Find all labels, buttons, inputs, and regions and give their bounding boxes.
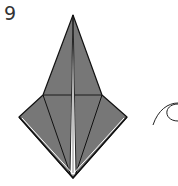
origami-diagram [0,0,178,186]
curved-arrow-icon [153,103,178,125]
